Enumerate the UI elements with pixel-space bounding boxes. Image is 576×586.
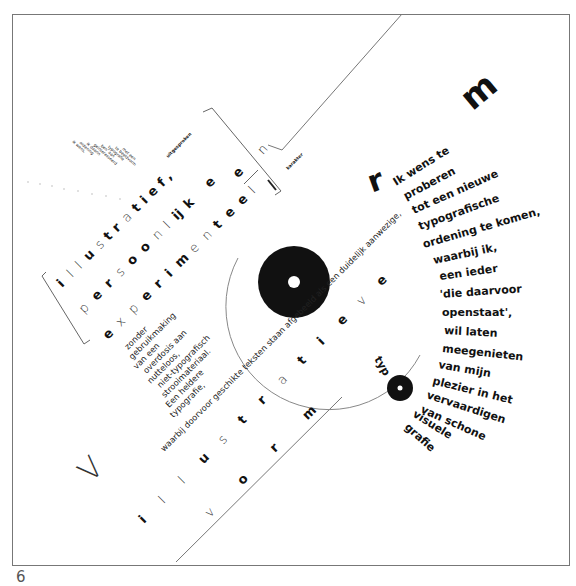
bracket-tick [268,145,282,150]
svg-text:s: s [215,432,230,447]
svg-text:s: s [92,237,107,252]
svg-text:t: t [210,217,225,232]
svg-text:e: e [186,240,202,256]
label-uitgesproken: uitgesproken [165,131,192,158]
svg-text:r: r [101,275,117,291]
svg-text:u: u [80,246,97,263]
svg-text:e: e [138,287,155,304]
svg-text:r: r [109,219,125,235]
svg-text:l: l [245,183,258,196]
svg-text:t: t [294,353,309,368]
svg-text:'die daarvoor: 'die daarvoor [439,282,522,301]
svg-text:r: r [150,276,166,292]
right-column: Ik wens te proberen tot een nieuwe typog… [391,144,542,455]
svg-text:p: p [125,300,141,316]
diagonal-rule-top [282,14,402,150]
svg-text:i: i [314,334,328,348]
svg-text:ij: ij [169,206,186,223]
letter-e: e [229,164,246,181]
svg-text:i: i [136,512,150,526]
bracket-mark [268,180,276,190]
letter-r-large: r [362,161,388,199]
label-karakter: karakter [285,151,304,170]
svg-text:a: a [274,371,290,387]
svg-text:l: l [160,218,173,231]
svg-text:i: i [54,276,68,290]
letter-v-large: V [71,449,110,488]
svg-text:e: e [201,173,218,190]
svg-text:r: r [254,392,270,408]
letter-m-top: m [452,64,505,117]
svg-text:e: e [144,183,161,200]
svg-text:t: t [235,412,250,427]
svg-text:n: n [149,226,165,242]
typographic-poster: m n e uitgesproken karakter ik wens, ord… [0,0,576,586]
svg-text:l: l [72,259,85,272]
svg-text:l: l [155,493,168,506]
svg-text:m: m [299,402,319,422]
small-ring-hole [398,386,403,391]
svg-text:m: m [172,250,192,270]
diagonal-rule-bottom [176,397,342,562]
svg-text:o: o [234,471,251,488]
bracket-connector [244,170,258,184]
typ-fragment: typ [371,354,392,378]
svg-text:openstaat',: openstaat', [442,306,512,319]
svg-text:v: v [353,292,369,308]
word-experimenteel: e x p e r i m e n t e e l [100,183,259,342]
svg-text:r: r [267,440,283,456]
svg-text:wil laten: wil laten [444,324,498,340]
svg-text:e: e [88,286,105,303]
svg-text:e: e [334,311,351,328]
svg-text:een ieder: een ieder [439,262,499,283]
svg-text:n: n [199,227,215,243]
svg-text:e: e [234,191,251,208]
figure-number: 6 [16,568,26,586]
svg-text:o: o [136,238,153,255]
svg-text:i: i [162,266,176,280]
svg-text:x: x [112,313,128,329]
svg-text:o: o [124,251,141,268]
svg-text:p: p [76,300,92,316]
tiny-list: ik wens, ordening ik daarin geïnteressee… [71,118,140,185]
svg-text:t: t [128,200,143,215]
svg-text:u: u [195,450,212,467]
svg-text:t: t [100,228,115,243]
big-ring-hole [288,276,300,288]
svg-text:e: e [100,325,117,342]
svg-text:s: s [112,264,127,279]
svg-text:a: a [119,209,135,225]
poster-artwork: m n e uitgesproken karakter ik wens, ord… [0,0,576,586]
letter-n: n [254,141,271,157]
svg-text:k: k [180,194,197,211]
dot-trail [27,181,121,200]
svg-text:l: l [63,267,76,280]
svg-text:l: l [175,473,188,486]
svg-text:v: v [202,504,218,520]
word-vorm: v o r m [202,402,320,520]
svg-text:e: e [373,272,390,289]
svg-text:e: e [221,204,238,221]
